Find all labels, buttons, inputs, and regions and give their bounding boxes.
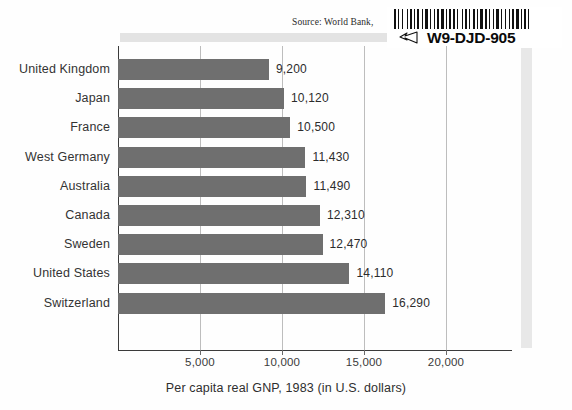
bar (118, 88, 284, 109)
x-tick-mark (200, 350, 201, 355)
category-label: United States (33, 266, 110, 280)
bar (118, 147, 305, 168)
bar-value-label: 14,110 (356, 266, 393, 280)
category-axis-labels: United KingdomJapanFranceWest GermanyAus… (0, 46, 110, 351)
x-tick-label: 5,000 (185, 356, 215, 368)
category-label: Sweden (64, 237, 110, 251)
bar-row: 12,310 (118, 205, 512, 226)
category-label: Australia (60, 179, 110, 193)
barcode-icon (394, 9, 556, 29)
bar-value-label: 16,290 (392, 296, 430, 310)
bar-row: 11,430 (118, 147, 512, 168)
bar-row: 10,500 (118, 117, 512, 138)
category-label: Switzerland (44, 296, 110, 310)
bar-row: 9,200 (118, 59, 512, 80)
category-label: United Kingdom (19, 62, 110, 76)
category-label: Canada (65, 208, 110, 222)
scan-shadow-top (120, 33, 400, 42)
bar (118, 205, 320, 226)
bar-value-label: 11,430 (312, 150, 349, 164)
bar-row: 16,290 (118, 293, 512, 314)
bar-value-label: 9,200 (276, 62, 307, 76)
category-label: Japan (75, 91, 110, 105)
bar (118, 234, 323, 255)
bar (118, 263, 349, 284)
bar-value-label: 12,470 (330, 237, 368, 251)
bar-row: 10,120 (118, 88, 512, 109)
category-label: West Germany (25, 150, 110, 164)
bar-value-label: 10,500 (297, 120, 335, 134)
bar-row: 11,490 (118, 176, 512, 197)
bar (118, 176, 306, 197)
bar (118, 293, 385, 314)
source-credit: Source: World Bank, (292, 17, 373, 27)
gnp-bar-chart-figure: Source: World Bank, W9-DJD-905 United Ki… (0, 0, 572, 410)
category-label: France (70, 120, 110, 134)
x-tick-label: 10,000 (264, 356, 300, 368)
x-axis-line (118, 350, 512, 351)
bar (118, 117, 290, 138)
x-tick-mark (282, 350, 283, 355)
bar-row: 14,110 (118, 263, 512, 284)
x-tick-mark (446, 350, 447, 355)
x-tick-mark (364, 350, 365, 355)
pointing-hand-icon (399, 31, 419, 45)
x-tick-label: 20,000 (428, 356, 464, 368)
scan-shadow-right (521, 48, 532, 348)
x-axis-title: Per capita real GNP, 1983 (in U.S. dolla… (0, 381, 572, 395)
bar-value-label: 12,310 (327, 208, 365, 222)
x-tick-label: 15,000 (346, 356, 382, 368)
plot-area: 5,00010,00015,00020,0009,20010,12010,500… (118, 46, 512, 351)
bar-value-label: 11,490 (313, 179, 350, 193)
bar-value-label: 10,120 (291, 91, 329, 105)
barcode-label: W9-DJD-905 (427, 29, 515, 47)
bar (118, 59, 269, 80)
barcode-sticker: W9-DJD-905 (387, 7, 562, 48)
bar-row: 12,470 (118, 234, 512, 255)
